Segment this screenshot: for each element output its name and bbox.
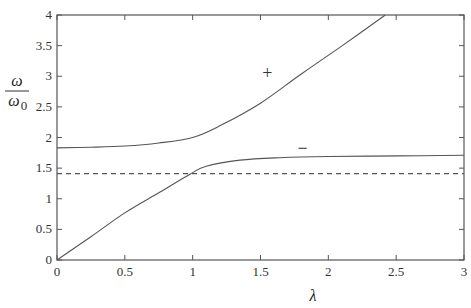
x-tick-label: 2.5 bbox=[388, 264, 404, 279]
y-tick-label: 0.5 bbox=[36, 221, 52, 236]
plot-curves bbox=[57, 15, 464, 260]
plot-border bbox=[57, 15, 464, 260]
plus-branch-label: + bbox=[262, 63, 272, 83]
x-axis-label: λ bbox=[309, 287, 317, 304]
svg-text:ω: ω bbox=[8, 92, 19, 109]
x-tick-label: 3 bbox=[461, 264, 468, 279]
y-tick-label: 0 bbox=[46, 252, 53, 267]
axis-ticks bbox=[57, 15, 464, 260]
svg-text:0: 0 bbox=[21, 98, 28, 113]
chart: 00.511.522.53 00.511.522.533.54 +− λ ω ω… bbox=[0, 0, 471, 308]
svg-text:ω: ω bbox=[11, 72, 22, 89]
y-tick-label: 4 bbox=[46, 7, 53, 22]
x-tick-label: 0 bbox=[54, 264, 61, 279]
y-tick-labels: 00.511.522.533.54 bbox=[36, 7, 53, 267]
x-tick-label: 1.5 bbox=[252, 264, 268, 279]
branch-annotations: +− bbox=[262, 63, 307, 158]
y-tick-label: 3.5 bbox=[36, 38, 52, 53]
axes-frame bbox=[57, 15, 464, 260]
y-tick-label: 2 bbox=[46, 130, 53, 145]
x-tick-label: 2 bbox=[325, 264, 332, 279]
y-tick-label: 2.5 bbox=[36, 99, 52, 114]
x-tick-label: 1 bbox=[189, 264, 196, 279]
x-tick-label: 0.5 bbox=[117, 264, 133, 279]
minus-branch-label: − bbox=[297, 138, 307, 158]
upper-branch-curve bbox=[57, 15, 385, 148]
y-axis-label: ω ω 0 bbox=[5, 72, 29, 113]
x-tick-labels: 00.511.522.53 bbox=[54, 264, 468, 279]
lower-branch-curve bbox=[57, 155, 464, 260]
y-tick-label: 1.5 bbox=[36, 160, 52, 175]
y-tick-label: 3 bbox=[46, 68, 53, 83]
y-tick-label: 1 bbox=[46, 191, 53, 206]
